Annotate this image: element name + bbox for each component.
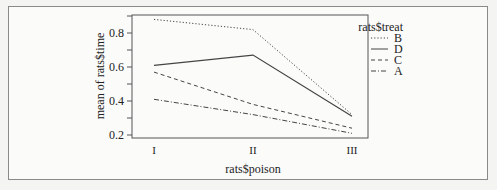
y-tick-label: 0.4 bbox=[109, 94, 124, 108]
y-axis: 0.2 0.4 0.6 0.8 bbox=[109, 16, 132, 142]
x-axis: I II III bbox=[152, 144, 358, 156]
interaction-plot: 0.2 0.4 0.6 0.8 mean of rats$time I II I… bbox=[0, 0, 497, 190]
x-tick-label: II bbox=[249, 144, 257, 156]
legend: rats$treat BDCA bbox=[358, 20, 403, 78]
y-tick-label: 0.2 bbox=[109, 128, 124, 142]
series-lines bbox=[154, 19, 352, 133]
series-line-a bbox=[154, 99, 352, 133]
x-axis-label: rats$poison bbox=[225, 162, 280, 176]
series-line-b bbox=[154, 19, 352, 114]
y-axis-label: mean of rats$time bbox=[93, 33, 107, 120]
legend-label: A bbox=[394, 64, 403, 78]
x-tick-label: I bbox=[152, 144, 156, 156]
series-line-c bbox=[154, 72, 352, 128]
x-tick-label: III bbox=[347, 144, 358, 156]
y-tick-label: 0.8 bbox=[109, 26, 124, 40]
y-tick-label: 0.6 bbox=[109, 60, 124, 74]
series-line-d bbox=[154, 55, 352, 116]
